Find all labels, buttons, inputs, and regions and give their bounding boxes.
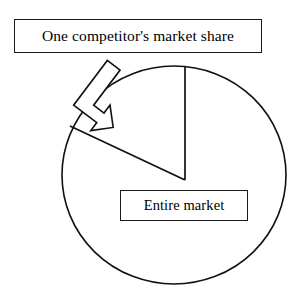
diagram-canvas: One competitor's market share Entire mar…: [0, 0, 308, 303]
entire-market-label-box: Entire market: [120, 190, 248, 221]
entire-market-label-text: Entire market: [144, 198, 225, 214]
competitor-share-label-text: One competitor's market share: [42, 28, 234, 45]
competitor-share-label-box: One competitor's market share: [14, 19, 262, 53]
